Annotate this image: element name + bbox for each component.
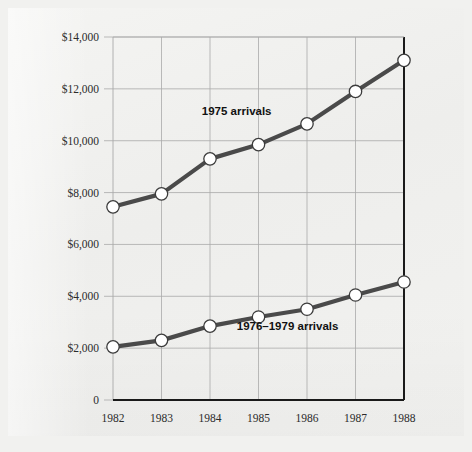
data-point-marker — [349, 289, 361, 301]
y-axis-tick-label: $8,000 — [67, 187, 99, 200]
y-axis-tick-label: 0 — [93, 394, 99, 406]
y-axis-tick-label: $14,000 — [62, 31, 100, 44]
data-point-marker — [252, 138, 264, 150]
data-point-marker — [398, 54, 410, 66]
x-axis-tick-label: 1983 — [150, 412, 173, 424]
data-point-marker — [301, 118, 313, 130]
series-label: 1975 arrivals — [202, 105, 272, 117]
y-axis-tick-label: $6,000 — [67, 238, 99, 251]
data-point-marker — [301, 303, 313, 315]
x-axis-tick-label: 1985 — [247, 412, 270, 424]
data-point-marker — [349, 85, 361, 97]
series-label: 1976–1979 arrivals — [237, 320, 339, 332]
vertical-gridlines — [162, 37, 356, 400]
data-point-marker — [107, 201, 119, 213]
x-axis-tick-labels: 1982198319841985198619871988 — [102, 412, 416, 424]
chart-figure: 0$2,000$4,000$6,000$8,000$10,000$12,000$… — [0, 0, 472, 452]
y-axis-tick-label: $10,000 — [62, 135, 100, 148]
data-point-marker — [155, 334, 167, 346]
data-point-marker — [107, 341, 119, 353]
x-axis-tick-label: 1988 — [393, 412, 416, 424]
data-point-marker — [204, 320, 216, 332]
data-point-marker — [155, 188, 167, 200]
x-axis-tick-label: 1986 — [296, 412, 319, 424]
y-axis-tick-label: $2,000 — [67, 342, 99, 355]
y-axis-tick-labels: 0$2,000$4,000$6,000$8,000$10,000$12,000$… — [62, 31, 100, 406]
data-point-marker — [204, 153, 216, 165]
x-axis-tick-label: 1984 — [199, 412, 222, 424]
x-axis-tick-label: 1982 — [102, 412, 125, 424]
y-axis-tick-label: $4,000 — [67, 290, 99, 303]
line-chart: 0$2,000$4,000$6,000$8,000$10,000$12,000$… — [0, 0, 472, 452]
y-axis-tick-label: $12,000 — [62, 83, 100, 96]
x-axis-tick-label: 1987 — [344, 412, 367, 424]
data-point-marker — [398, 276, 410, 288]
